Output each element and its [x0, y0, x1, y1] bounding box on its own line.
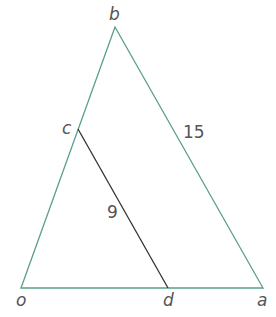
- label-d: d: [163, 290, 174, 310]
- segment-cd: [78, 129, 168, 288]
- length-cd: 9: [107, 202, 118, 222]
- label-o: o: [16, 290, 26, 310]
- length-ab: 15: [183, 122, 205, 142]
- label-c: c: [62, 118, 72, 138]
- triangle-oab: [21, 27, 263, 288]
- triangle-diagram: b c o d a 15 9: [0, 0, 276, 317]
- label-a: a: [257, 290, 267, 310]
- label-b: b: [109, 4, 120, 24]
